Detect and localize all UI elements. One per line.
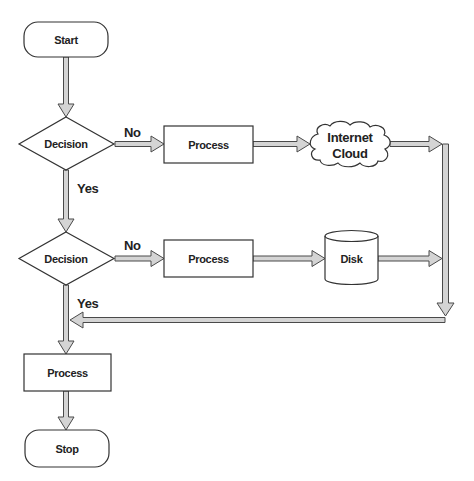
edge-label-decision-1-no: No: [124, 125, 141, 140]
edge-label-decision-1-yes: Yes: [77, 181, 99, 196]
arrow-process-3-to-stop: [58, 391, 74, 430]
arrow-start-to-decision-1: [58, 57, 74, 117]
arrow-return-to-main-line: [70, 312, 445, 328]
start-node-label: Start: [54, 34, 78, 46]
decision-node-2-label: Decision: [44, 253, 88, 265]
arrow-process-1-to-cloud: [253, 136, 310, 152]
flowchart-diagram: Start Decision Process Internet Cloud De…: [0, 0, 474, 481]
cloud-label-line-2: Cloud: [332, 146, 368, 161]
decision-node-1-label: Decision: [44, 138, 88, 150]
process-node-1-label: Process: [188, 139, 229, 151]
process-node-1[interactable]: Process: [164, 126, 253, 163]
internet-cloud-node[interactable]: Internet Cloud: [310, 121, 390, 166]
arrow-cloud-to-right-connector: [390, 136, 442, 152]
arrow-process-2-to-disk: [253, 251, 325, 267]
arrow-disk-to-right-connector: [378, 251, 442, 267]
process-node-3-label: Process: [47, 367, 88, 379]
process-node-2[interactable]: Process: [164, 240, 253, 277]
edge-label-decision-2-yes: Yes: [77, 296, 99, 311]
decision-node-2[interactable]: Decision: [19, 232, 114, 285]
stop-node[interactable]: Stop: [25, 430, 109, 467]
disk-node-label: Disk: [340, 253, 363, 265]
arrow-decision-1-to-decision-2: [58, 170, 74, 232]
stop-node-label: Stop: [55, 443, 79, 455]
decision-node-1[interactable]: Decision: [19, 117, 114, 170]
arrow-right-connector-down: [437, 144, 454, 316]
cloud-label-line-1: Internet: [327, 130, 373, 145]
process-node-3[interactable]: Process: [24, 354, 111, 391]
edge-label-decision-2-no: No: [124, 238, 141, 253]
start-node[interactable]: Start: [24, 22, 108, 57]
disk-node[interactable]: Disk: [325, 231, 378, 285]
process-node-2-label: Process: [188, 253, 229, 265]
